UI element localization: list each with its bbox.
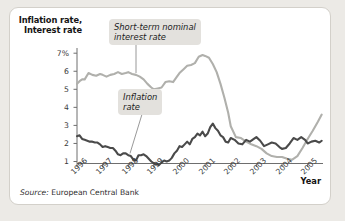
x-axis-title: Year bbox=[300, 176, 321, 186]
y-tick-label-2: 2 bbox=[45, 139, 69, 148]
callout-inflation-rate: Inflation rate bbox=[118, 89, 162, 115]
series-line-short-term-nominal-interest-rate bbox=[77, 55, 322, 160]
source-note: Source: European Central Bank bbox=[20, 188, 139, 197]
y-tick-label-4: 4 bbox=[45, 103, 69, 112]
callout-interest-line1: Short-term nominal bbox=[114, 22, 196, 32]
callout-leader-line-inflation bbox=[130, 111, 143, 153]
callout-inflation-line2: rate bbox=[123, 102, 157, 112]
y-tick-label-5: 5 bbox=[45, 85, 69, 94]
y-tick-label-1: 1 bbox=[45, 157, 69, 166]
y-tick-label-7: 7% bbox=[45, 49, 69, 58]
source-text: European Central Bank bbox=[51, 188, 139, 197]
y-tick-label-6: 6 bbox=[45, 67, 69, 76]
chart-figure-panel: Inflation rate, Interest rate 7%654321 1… bbox=[9, 7, 331, 205]
y-axis-ticks bbox=[74, 53, 78, 161]
callout-inflation-line1: Inflation bbox=[123, 92, 157, 102]
callout-short-term-nominal-interest-rate: Short-term nominal interest rate bbox=[109, 19, 201, 45]
source-prefix: Source: bbox=[20, 188, 49, 197]
y-tick-label-3: 3 bbox=[45, 121, 69, 130]
callout-interest-line2: interest rate bbox=[114, 32, 196, 42]
